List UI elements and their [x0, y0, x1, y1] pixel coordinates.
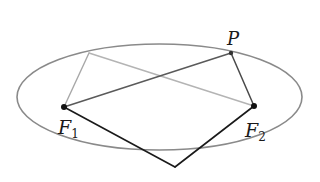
ellipse-diagram: F1 F2 P: [0, 0, 320, 182]
segment-b-f2: [175, 106, 254, 167]
label-f1: F1: [57, 116, 79, 141]
focus-point-f1: [61, 104, 67, 110]
segment-f1-p: [64, 53, 231, 107]
label-f1-main: F: [57, 116, 72, 138]
segment-f1-b: [64, 107, 175, 167]
segment-q-f2: [89, 53, 254, 106]
label-f2-subscript: 2: [258, 130, 266, 144]
label-f1-subscript: 1: [71, 127, 79, 141]
label-f2: F2: [244, 119, 266, 144]
segment-f1-q: [64, 53, 89, 107]
label-f2-main: F: [244, 119, 259, 141]
segment-p-f2: [231, 53, 254, 106]
focus-point-f2: [251, 103, 257, 109]
point-p: [229, 51, 233, 55]
label-p: P: [226, 28, 240, 49]
